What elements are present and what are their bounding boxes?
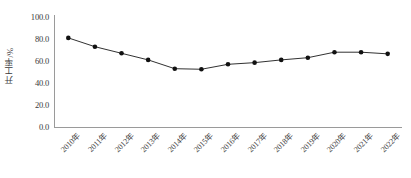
- data-point: [306, 55, 311, 60]
- data-point: [146, 58, 151, 63]
- plot-area: [55, 17, 401, 127]
- x-tick-label: 2015年: [191, 130, 215, 154]
- x-tick-label: 2013年: [138, 130, 162, 154]
- y-tick-label: 80.0: [35, 34, 49, 44]
- y-axis-title: 开工率/%: [6, 48, 15, 84]
- data-point: [252, 60, 257, 65]
- data-point: [359, 50, 364, 55]
- chart-figure: 开工率/% 0.020.040.060.080.0100.0 2010年2011…: [0, 0, 411, 178]
- y-tick-label: 20.0: [35, 100, 49, 110]
- x-tick-label: 2014年: [164, 130, 188, 154]
- x-tick-label: 2017年: [244, 130, 268, 154]
- x-tick-label: 2012年: [111, 130, 135, 154]
- data-point: [226, 62, 231, 67]
- x-tick-label: 2010年: [58, 130, 82, 154]
- line-series: [55, 17, 401, 127]
- x-tick-label: 2018年: [271, 130, 295, 154]
- data-point: [93, 44, 98, 49]
- data-point: [119, 51, 124, 56]
- x-tick-label: 2011年: [85, 130, 109, 154]
- data-point: [66, 36, 71, 41]
- x-tick-label: 2021年: [351, 130, 375, 154]
- x-tick-label: 2022年: [377, 130, 401, 154]
- x-tick-label: 2020年: [324, 130, 348, 154]
- data-point: [332, 50, 337, 55]
- data-point: [172, 66, 177, 71]
- y-tick-label: 0.0: [39, 122, 49, 132]
- x-tick-label: 2016年: [218, 130, 242, 154]
- y-tick-label: 60.0: [35, 56, 49, 66]
- x-axis-tick-labels: 2010年2011年2012年2013年2014年2015年2016年2017年…: [55, 128, 401, 176]
- y-tick-label: 40.0: [35, 78, 49, 88]
- y-tick-label: 100.0: [31, 12, 49, 22]
- data-point: [199, 67, 204, 72]
- data-point: [279, 58, 284, 63]
- data-point: [385, 52, 390, 57]
- series-markers: [66, 36, 390, 72]
- x-tick-label: 2019年: [298, 130, 322, 154]
